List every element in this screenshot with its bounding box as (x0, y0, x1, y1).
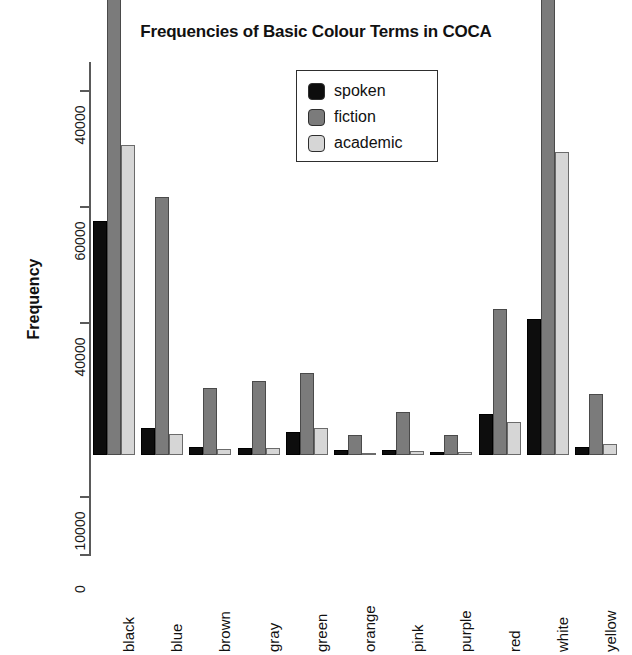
bar-white-academic (555, 152, 569, 455)
x-axis-label-orange: orange (361, 562, 378, 652)
bar-pink-spoken (382, 450, 396, 456)
bar-blue-spoken (141, 428, 155, 455)
bar-green-spoken (286, 432, 300, 455)
legend-label: fiction (334, 108, 376, 126)
bar-gray-spoken (238, 448, 252, 455)
bar-red-academic (507, 422, 521, 455)
x-axis-label-gray: gray (265, 562, 282, 652)
x-axis-label-red: red (506, 562, 523, 652)
bar-blue-fiction (155, 197, 169, 455)
x-axis-label-black: black (120, 562, 137, 652)
x-axis-label-text: gray (265, 623, 282, 652)
x-axis-label-blue: blue (168, 562, 185, 652)
x-axis-label-text: black (120, 617, 137, 652)
x-axis-label-text: red (506, 630, 523, 652)
academic-swatch (308, 135, 325, 152)
bar-black-fiction (107, 0, 121, 455)
x-axis-label-text: green (313, 614, 330, 652)
x-axis-label-pink: pink (409, 562, 426, 652)
bar-group (479, 0, 521, 555)
x-axis-label-text: white (554, 617, 571, 652)
legend-label: spoken (334, 82, 386, 100)
chart-legend: spokenfictionacademic (296, 70, 438, 162)
bar-pink-fiction (396, 412, 410, 455)
x-axis-label-brown: brown (216, 562, 233, 652)
x-axis-label-text: yellow (602, 610, 619, 652)
x-axis-label-green: green (313, 562, 330, 652)
legend-item-academic: academic (308, 130, 437, 156)
bar-brown-spoken (189, 447, 203, 455)
bar-blue-academic (169, 434, 183, 455)
legend-label: academic (334, 134, 402, 152)
x-axis-label-text: blue (168, 624, 185, 652)
bar-group (527, 0, 569, 555)
spoken-swatch (308, 83, 325, 100)
x-axis-label-white: white (554, 562, 571, 652)
bar-group (189, 0, 231, 555)
x-axis-label-text: brown (216, 611, 233, 652)
bar-orange-spoken (334, 450, 348, 455)
bar-black-spoken (93, 221, 107, 455)
bar-green-academic (314, 428, 328, 455)
bar-purple-fiction (444, 435, 458, 455)
bar-red-spoken (479, 414, 493, 455)
bar-yellow-academic (603, 444, 617, 455)
bar-white-fiction (541, 0, 555, 455)
bar-purple-spoken (430, 452, 444, 455)
bar-brown-academic (217, 449, 231, 455)
fiction-swatch (308, 109, 325, 126)
bar-gray-academic (266, 448, 280, 455)
bar-purple-academic (458, 452, 472, 455)
x-axis-label-yellow: yellow (602, 562, 619, 652)
bar-group (93, 0, 135, 555)
x-axis-label-purple: purple (457, 562, 474, 652)
bar-brown-fiction (203, 388, 217, 455)
bar-group (141, 0, 183, 555)
x-axis-label-text: orange (361, 605, 378, 652)
bar-group (238, 0, 280, 555)
bar-red-fiction (493, 309, 507, 455)
bar-yellow-fiction (589, 394, 603, 455)
bar-black-academic (121, 145, 135, 455)
bar-gray-fiction (252, 381, 266, 455)
bar-pink-academic (410, 451, 424, 455)
x-axis-label-text: pink (409, 624, 426, 652)
bar-yellow-spoken (575, 447, 589, 455)
bar-group (575, 0, 617, 555)
x-axis-label-text: purple (457, 610, 474, 652)
bar-green-fiction (300, 373, 314, 455)
chart-figure: Frequencies of Basic Colour Terms in COC… (0, 0, 632, 655)
bar-orange-academic (362, 453, 376, 455)
legend-item-fiction: fiction (308, 104, 437, 130)
legend-item-spoken: spoken (308, 78, 437, 104)
bar-white-spoken (527, 319, 541, 455)
bar-orange-fiction (348, 435, 362, 455)
